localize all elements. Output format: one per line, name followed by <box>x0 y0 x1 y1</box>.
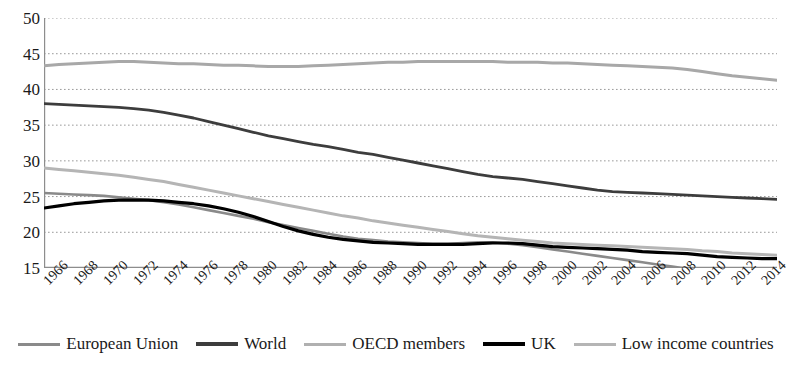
y-axis-tick-label: 20 <box>6 224 40 241</box>
chart-figure: 1520253035404550 19661968197019721974197… <box>0 0 792 365</box>
chart-canvas <box>44 18 777 268</box>
legend-item[interactable]: European Union <box>18 335 178 353</box>
cropped-title-remnant <box>120 0 440 2</box>
series-line-oecd-members <box>44 62 777 81</box>
legend-item[interactable]: UK <box>483 335 556 353</box>
y-axis-tick-label: 40 <box>6 81 40 98</box>
y-axis-tick-label: 30 <box>6 153 40 170</box>
x-axis-tick-labels: 1966196819701972197419761978198019821984… <box>44 270 784 325</box>
legend-item[interactable]: OECD members <box>304 335 465 353</box>
y-axis-tick-label: 15 <box>6 260 40 277</box>
y-axis-tick-label: 25 <box>6 189 40 206</box>
series-line-world <box>44 104 777 200</box>
legend-swatch-icon <box>196 342 238 346</box>
legend-item[interactable]: World <box>196 335 286 353</box>
legend-swatch-icon <box>574 343 616 346</box>
plot-area <box>44 18 777 268</box>
y-axis-tick-label: 35 <box>6 117 40 134</box>
legend-label: World <box>244 335 286 353</box>
legend-label: Low income countries <box>622 335 774 353</box>
y-axis-tick-labels: 1520253035404550 <box>0 0 40 290</box>
legend-label: European Union <box>66 335 178 353</box>
legend-label: UK <box>531 335 556 353</box>
y-axis-tick-label: 50 <box>6 10 40 27</box>
legend-swatch-icon <box>304 343 346 346</box>
series-line-european-union <box>44 193 777 268</box>
legend-swatch-icon <box>483 342 525 346</box>
y-axis-tick-label: 45 <box>6 46 40 63</box>
legend-label: OECD members <box>352 335 465 353</box>
chart-legend: European UnionWorldOECD membersUKLow inc… <box>0 330 792 358</box>
legend-item[interactable]: Low income countries <box>574 335 774 353</box>
legend-swatch-icon <box>18 343 60 346</box>
